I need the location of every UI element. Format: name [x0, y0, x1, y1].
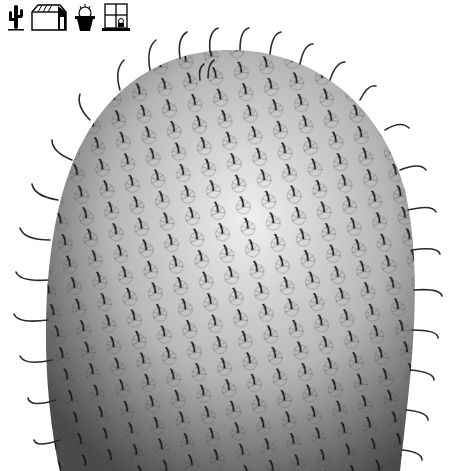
icon-nav — [8, 2, 130, 36]
cactus-icon — [8, 2, 24, 32]
greenhouse-icon — [30, 2, 68, 32]
nav-greenhouse[interactable] — [30, 2, 68, 36]
nav-potted-cactus[interactable] — [74, 2, 96, 36]
potted-cactus-icon — [74, 2, 96, 32]
cactus-illustration — [0, 0, 455, 471]
cactus-photo — [0, 0, 455, 471]
window-plant-icon — [102, 2, 130, 32]
nav-cactus[interactable] — [8, 2, 24, 36]
nav-window-plant[interactable] — [102, 2, 130, 36]
